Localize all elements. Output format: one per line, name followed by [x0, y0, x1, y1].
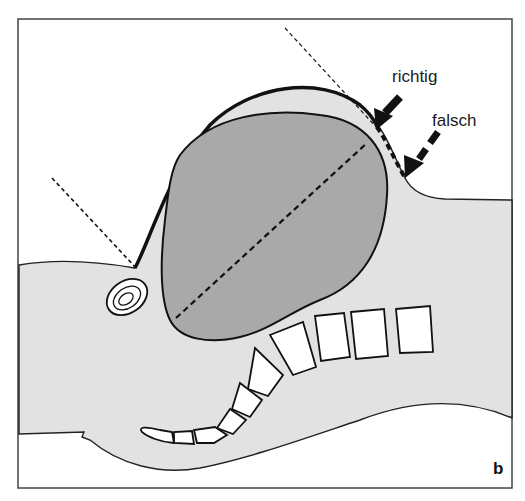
vertebra	[351, 309, 388, 359]
correct-label: richtig	[392, 67, 437, 86]
panel-letter: b	[493, 459, 503, 478]
anatomical-diagram: richtig falsch b	[0, 0, 525, 501]
incorrect-label: falsch	[432, 111, 476, 130]
vertebra	[174, 431, 194, 444]
vertebra	[396, 306, 433, 353]
vertebra	[315, 313, 350, 361]
